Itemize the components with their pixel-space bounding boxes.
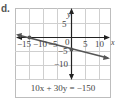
equation-label: 10x + 30y = −150: [16, 83, 110, 93]
x-tick-10: 10: [95, 39, 105, 49]
line-right-arrow-icon: [103, 55, 110, 60]
x-axis-right-arrow-icon: [104, 35, 110, 40]
x-tick-neg5: −5: [48, 39, 58, 49]
x-tick-5: 5: [83, 39, 88, 49]
point-y-intercept: [70, 48, 74, 52]
y-tick-5: 5: [62, 19, 67, 29]
x-tick-0: 0: [65, 37, 70, 47]
y-axis-label: y: [66, 9, 71, 19]
y-tick-neg5: −5: [58, 46, 68, 56]
x-tick-neg10: −10: [33, 39, 48, 49]
x-axis-label: x: [110, 38, 115, 47]
x-tick-neg15: −15: [17, 39, 32, 49]
y-tick-neg10: −10: [54, 59, 69, 69]
